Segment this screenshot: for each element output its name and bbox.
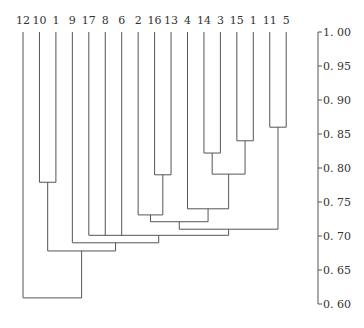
- leaf-label: 1: [250, 14, 257, 27]
- axis-tick-label: 0. 80: [323, 162, 351, 175]
- axis-tick-label: 0. 90: [323, 94, 351, 107]
- axis-tick-label: 0. 70: [323, 230, 351, 243]
- leaf-label: 6: [118, 14, 125, 27]
- leaf-label: 9: [69, 14, 76, 27]
- axis-tick-label: 0. 65: [323, 264, 351, 277]
- y-axis: 1. 000. 950. 900. 850. 800. 750. 700. 65…: [318, 26, 351, 311]
- leaf-labels: 1210191786216134143151115: [16, 14, 290, 27]
- leaf-label: 14: [197, 14, 211, 27]
- axis-tick-label: 1. 00: [323, 26, 351, 39]
- leaf-label: 8: [102, 14, 109, 27]
- leaf-label: 12: [16, 14, 30, 27]
- leaf-label: 10: [32, 14, 46, 27]
- leaf-label: 2: [135, 14, 142, 27]
- axis-tick-label: 0. 85: [323, 128, 351, 141]
- axis-tick-label: 0. 75: [323, 196, 351, 209]
- leaf-label: 1: [52, 14, 59, 27]
- axis-tick-label: 0. 95: [323, 60, 351, 73]
- leaf-label: 4: [184, 14, 191, 27]
- leaf-label: 15: [230, 14, 244, 27]
- leaf-label: 13: [164, 14, 178, 27]
- leaf-label: 11: [263, 14, 277, 27]
- dendrogram-chart: 1210191786216134143151115 1. 000. 950. 9…: [0, 0, 364, 328]
- leaf-label: 17: [82, 14, 96, 27]
- leaf-label: 3: [217, 14, 224, 27]
- axis-tick-label: 0. 60: [323, 298, 351, 311]
- leaf-label: 5: [283, 14, 290, 27]
- leaf-label: 16: [148, 14, 162, 27]
- dendrogram-tree: [23, 32, 286, 298]
